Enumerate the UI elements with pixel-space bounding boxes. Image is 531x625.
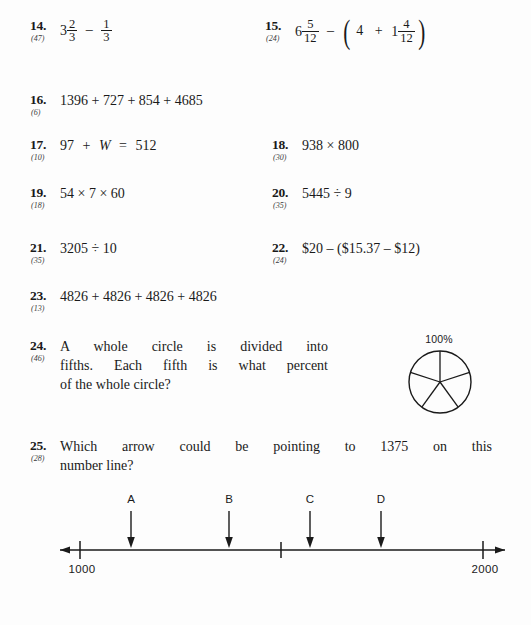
problem-25-line-1: Which arrow could be pointing to 1375 on… [60, 438, 492, 457]
problem-21-number: 21. [30, 241, 60, 255]
numerator: 5 [305, 18, 315, 31]
problem-20: 20. (35) 5445 ÷ 9 [272, 185, 352, 210]
problem-24: 24. (46) A whole circle is divided into … [30, 338, 350, 394]
fraction-1-3: 1 3 [101, 18, 111, 45]
problem-21-reference: (35) [31, 257, 60, 265]
problem-18-number: 18. [272, 138, 302, 152]
problem-16-expression: 1396 + 727 + 854 + 4685 [60, 92, 203, 110]
problem-24-line-3: of the whole circle? [60, 376, 328, 395]
arrow-c [306, 511, 314, 548]
problem-23-number: 23. [30, 289, 60, 303]
problem-22-number-block: 22. (24) [272, 240, 302, 265]
problem-25-number: 25. [30, 439, 60, 453]
pie-chart-label: 100% [408, 333, 470, 345]
problem-15-number: 15. [265, 19, 295, 33]
number-line-figure: A B C D [0, 485, 531, 585]
fraction-4-12: 4 12 [398, 18, 415, 45]
fraction-5-12: 5 12 [302, 18, 319, 45]
problem-21-number-block: 21. (35) [30, 240, 60, 265]
problem-14-number-block: 14. (47) [30, 18, 60, 43]
problem-19-number: 19. [30, 186, 60, 200]
minus-operator: – [86, 22, 93, 37]
number-line-left-label: 1000 [69, 563, 96, 575]
variable-w: W [99, 138, 111, 153]
problem-18-reference: (30) [273, 154, 302, 162]
plus-operator: + [375, 23, 383, 38]
term-4: 4 [356, 23, 363, 38]
problem-16-reference: (6) [31, 109, 60, 117]
problem-20-number-block: 20. (35) [272, 185, 302, 210]
denominator: 3 [67, 30, 77, 44]
problem-15: 15. (24) 6 5 12 – ( 4 + 1 4 12 ) [265, 18, 426, 46]
problem-18-expression: 938 × 800 [302, 137, 359, 155]
problem-17-reference: (10) [31, 154, 60, 162]
problem-25-text: Which arrow could be pointing to 1375 on… [60, 438, 492, 476]
problem-21: 21. (35) 3205 ÷ 10 [30, 240, 117, 265]
problem-18: 18. (30) 938 × 800 [272, 137, 359, 162]
problem-24-number-block: 24. (46) [30, 338, 60, 363]
problem-24-line-1: A whole circle is divided into [60, 338, 328, 357]
operand-b: 512 [135, 138, 156, 153]
arrow-a [127, 511, 135, 548]
mixed-number-1-4-12: 1 4 12 [391, 19, 415, 46]
number-line-right-label: 2000 [472, 563, 499, 575]
problem-25: 25. (28) Which arrow could be pointing t… [30, 438, 500, 476]
problem-20-reference: (35) [273, 202, 302, 210]
open-paren: ( [343, 18, 350, 46]
mixed-number-3-2-3: 3 2 3 [60, 18, 77, 45]
problem-25-number-block: 25. (28) [30, 438, 60, 463]
problem-23-reference: (13) [31, 305, 60, 313]
problem-15-reference: (24) [266, 35, 295, 43]
minus-operator: – [327, 23, 334, 38]
problem-20-number: 20. [272, 186, 302, 200]
fraction-2-3: 2 3 [67, 18, 77, 45]
problem-24-reference: (46) [31, 355, 60, 363]
problem-17: 17. (10) 97 + W = 512 [30, 137, 156, 162]
problem-25-line-2: number line? [60, 457, 492, 476]
problem-17-number: 17. [30, 138, 60, 152]
problem-20-expression: 5445 ÷ 9 [302, 185, 352, 203]
problem-23-expression: 4826 + 4826 + 4826 + 4826 [60, 288, 217, 306]
problem-17-number-block: 17. (10) [30, 137, 60, 162]
pie-chart-icon [405, 347, 475, 417]
denominator: 12 [398, 31, 415, 45]
left-arrowhead [60, 547, 70, 554]
numerator: 2 [67, 18, 77, 31]
equals-operator: = [119, 138, 127, 153]
problem-24-text: A whole circle is divided into fifths. E… [60, 338, 328, 394]
problem-22-reference: (24) [273, 257, 302, 265]
problem-14-number: 14. [30, 19, 60, 33]
problem-16: 16. (6) 1396 + 727 + 854 + 4685 [30, 92, 203, 117]
operand-a: 97 [60, 138, 74, 153]
problem-14: 14. (47) 3 2 3 – 1 3 [30, 18, 112, 45]
whole-part: 3 [60, 24, 67, 38]
right-arrowhead [495, 547, 505, 554]
problem-19-number-block: 19. (18) [30, 185, 60, 210]
whole-part: 1 [391, 25, 398, 39]
numerator: 1 [101, 18, 111, 31]
pie-chart-figure: 100% [405, 333, 485, 423]
mixed-number-6-5-12: 6 5 12 [295, 19, 319, 46]
plus-operator: + [83, 138, 91, 153]
problem-23: 23. (13) 4826 + 4826 + 4826 + 4826 [30, 288, 217, 313]
problem-17-expression: 97 + W = 512 [60, 137, 156, 155]
problem-22-expression: $20 – ($15.37 – $12) [302, 240, 420, 258]
problem-14-reference: (47) [31, 35, 60, 43]
problem-22-number: 22. [272, 241, 302, 255]
arrow-d [377, 511, 385, 548]
denominator: 3 [101, 30, 111, 44]
problem-24-number: 24. [30, 339, 60, 353]
whole-part: 6 [295, 25, 302, 39]
numerator: 4 [401, 18, 411, 31]
problem-21-expression: 3205 ÷ 10 [60, 240, 117, 258]
problem-16-number: 16. [30, 93, 60, 107]
problem-19: 19. (18) 54 × 7 × 60 [30, 185, 125, 210]
problem-22: 22. (24) $20 – ($15.37 – $12) [272, 240, 420, 265]
problem-16-number-block: 16. (6) [30, 92, 60, 117]
arrow-b [225, 511, 233, 548]
problem-19-reference: (18) [31, 202, 60, 210]
problem-25-reference: (28) [31, 455, 60, 463]
close-paren: ) [418, 18, 425, 46]
problem-15-number-block: 15. (24) [265, 18, 295, 43]
denominator: 12 [302, 31, 319, 45]
